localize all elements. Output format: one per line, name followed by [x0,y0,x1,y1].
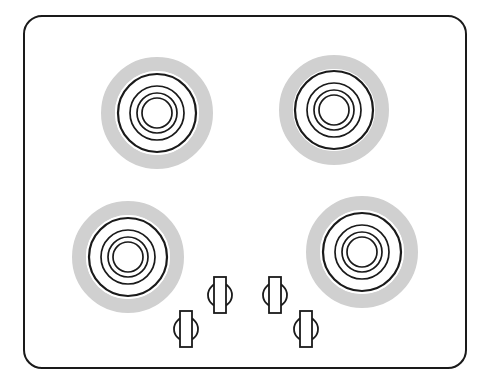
burner-top-right [286,62,382,158]
burner-bottom-right [313,203,411,301]
burner-top-left [108,64,206,162]
knob-handle-icon [300,311,312,347]
burner-bottom-left [79,208,177,306]
cooktop-outline [24,16,466,368]
cooktop-diagram [0,0,485,379]
knob-handle-icon [214,277,226,313]
knob-handle-icon [269,277,281,313]
knob-handle-icon [180,311,192,347]
